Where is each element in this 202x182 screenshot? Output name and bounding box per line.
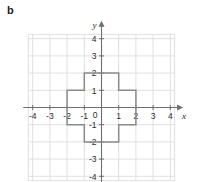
y-tick-label: 3: [92, 51, 97, 61]
origin-label: 0: [93, 110, 98, 120]
y-axis-arrow-icon: [99, 21, 105, 27]
x-tick-label: 3: [151, 111, 156, 121]
axis-name-group: xy: [92, 20, 187, 121]
coordinate-plane-svg: -4-3-2-11234 4321-1-2-3-4 0 xy: [0, 0, 202, 182]
axes-group: [23, 21, 183, 182]
x-tick-labels-group: -4-3-2-11234: [29, 111, 173, 121]
y-tick-label: -3: [89, 154, 97, 164]
x-tick-label: 1: [116, 111, 121, 121]
x-tick-label: -4: [29, 111, 37, 121]
x-tick-label: 4: [168, 111, 173, 121]
y-axis-label: y: [92, 20, 97, 30]
x-tick-label: -1: [81, 111, 89, 121]
y-tick-label: -1: [89, 120, 97, 130]
y-tick-label: -4: [89, 172, 97, 182]
y-tick-label: 1: [92, 86, 97, 96]
coordinate-plane-figure: -4-3-2-11234 4321-1-2-3-4 0 xy: [0, 0, 202, 182]
y-tick-label: 4: [92, 34, 97, 44]
origin-label-group: 0: [93, 110, 98, 120]
x-tick-label: -3: [46, 111, 54, 121]
x-axis-label: x: [181, 111, 186, 121]
